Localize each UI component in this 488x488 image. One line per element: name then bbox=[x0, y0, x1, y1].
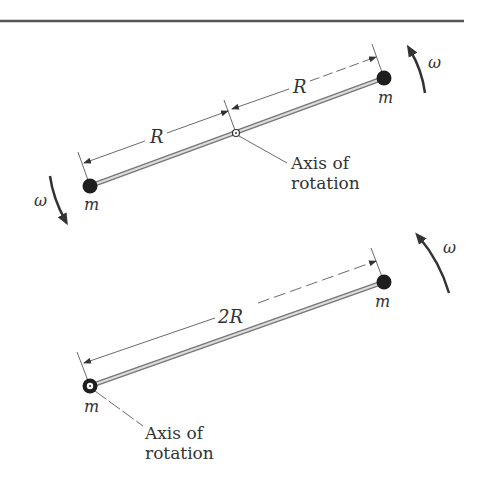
mass-label-right: m bbox=[375, 292, 390, 311]
bottom-rod-system: 2R m m ω Axis of rotation bbox=[77, 237, 456, 463]
mass-right bbox=[377, 71, 392, 86]
dim-label-left: R bbox=[149, 126, 164, 147]
omega-label-right: ω bbox=[428, 53, 441, 72]
mass-label-right: m bbox=[378, 88, 393, 107]
axis-label-line2: rotation bbox=[291, 173, 360, 193]
mass-label-left: m bbox=[84, 195, 99, 214]
dim-label-2r: 2R bbox=[217, 306, 243, 327]
axis-label-line2: rotation bbox=[145, 443, 214, 463]
omega-arrow-right-icon bbox=[410, 50, 425, 93]
mass-left bbox=[83, 179, 98, 194]
omega-label-left: ω bbox=[34, 191, 47, 210]
dim-label-right: R bbox=[292, 76, 307, 97]
mass-right bbox=[377, 275, 392, 290]
rotating-rods-diagram: R R m m ω ω Axis of rotation 2R m m ω Ax… bbox=[0, 0, 488, 488]
axis-label-line1: Axis of bbox=[290, 153, 351, 173]
omega-label: ω bbox=[443, 238, 456, 257]
omega-arrow-left-icon bbox=[50, 176, 65, 220]
axis-label-line1: Axis of bbox=[144, 423, 205, 443]
mass-label-left: m bbox=[84, 397, 99, 416]
top-rod-system: R R m m ω ω Axis of rotation bbox=[34, 44, 441, 220]
figure: R R m m ω ω Axis of rotation 2R m m ω Ax… bbox=[0, 0, 488, 488]
